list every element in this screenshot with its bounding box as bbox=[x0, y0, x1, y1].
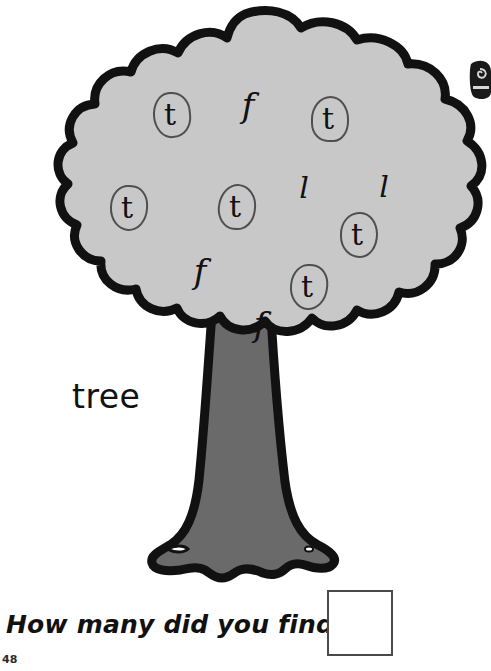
tree-illustration: tftttlltftf bbox=[0, 0, 491, 600]
worksheet-page: tftttlltftf tree How many did you find? … bbox=[0, 0, 491, 671]
question-text: How many did you find? bbox=[6, 610, 349, 639]
canopy-letter-t-circled[interactable]: t bbox=[318, 104, 338, 134]
tree-canopy bbox=[58, 10, 482, 331]
question-row: How many did you find? 48 bbox=[0, 585, 491, 671]
tree-trunk bbox=[152, 300, 335, 578]
answer-box[interactable] bbox=[327, 590, 393, 656]
canopy-letter-f[interactable]: f bbox=[190, 254, 210, 288]
word-label: tree bbox=[72, 377, 140, 416]
canopy-letter-l[interactable]: l bbox=[374, 172, 394, 202]
canopy-letter-f[interactable]: f bbox=[250, 307, 270, 341]
canopy-letter-t-circled[interactable]: t bbox=[160, 100, 180, 130]
canopy-letter-t-circled[interactable]: t bbox=[225, 192, 245, 222]
canopy-letter-t-circled[interactable]: t bbox=[347, 220, 367, 250]
root-hollow-right bbox=[305, 547, 313, 552]
canopy-letter-t-circled[interactable]: t bbox=[117, 193, 137, 223]
snail-body bbox=[470, 61, 491, 99]
page-number: 48 bbox=[2, 653, 17, 666]
canopy-letter-t-circled[interactable]: t bbox=[297, 272, 317, 302]
canopy-letter-f[interactable]: f bbox=[238, 88, 258, 122]
root-hollow-left bbox=[168, 546, 188, 552]
snail-icon bbox=[469, 58, 491, 100]
snail-stripe bbox=[473, 86, 489, 89]
canopy-letter-l[interactable]: l bbox=[294, 173, 314, 203]
